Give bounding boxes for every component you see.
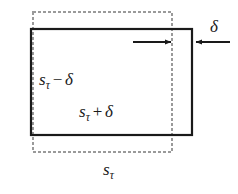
label-delta-glyph: δ [210, 17, 218, 36]
label-delta-offset: δ [210, 18, 218, 35]
label-s-tau-plus-delta: sτ+δ [79, 103, 113, 123]
label-tau-subscript: τ [86, 111, 90, 124]
label-s-glyph: s [79, 102, 86, 121]
diagram-svg [0, 0, 238, 194]
figure-canvas: sτ−δ sτ+δ sτ δ [0, 0, 238, 194]
label-minus-operator: − [53, 70, 63, 89]
label-s-tau-minus-delta: sτ−δ [39, 71, 73, 91]
label-plus-operator: + [93, 102, 103, 121]
label-tau-subscript: τ [46, 79, 50, 92]
label-delta-glyph: δ [105, 102, 113, 121]
label-tau-subscript: τ [110, 169, 114, 182]
label-s-glyph: s [39, 70, 46, 89]
label-s-glyph: s [103, 160, 110, 179]
label-s-tau-bottom: sτ [103, 161, 114, 181]
label-delta-glyph: δ [65, 70, 73, 89]
